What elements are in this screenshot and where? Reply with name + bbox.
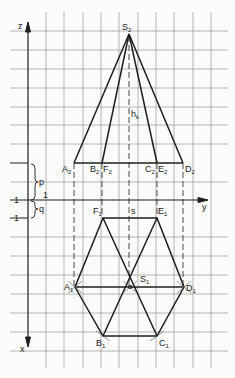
label-a2: A2 (62, 164, 72, 175)
top-view (75, 218, 184, 336)
projection-lines (74, 163, 183, 287)
y-axis-label: y (202, 202, 207, 212)
z-axis-label: z (18, 21, 23, 31)
height-label: hk (131, 109, 140, 120)
label-f2: F2 (103, 164, 113, 175)
label-c1: C1 (159, 338, 170, 349)
x-axis-label: x (20, 344, 25, 354)
label-b1: B1 (96, 338, 106, 349)
label-one-upper: 1 (14, 195, 19, 205)
label-q: q (39, 204, 44, 214)
z-axis-arrow-icon (26, 22, 31, 32)
label-s: s (131, 206, 136, 216)
dimension-braces (31, 164, 38, 218)
apex-label-s2: S2 (122, 22, 132, 33)
label-s1: S1 (140, 274, 150, 285)
label-d2: D2 (185, 164, 196, 175)
label-a1: A1 (64, 282, 74, 293)
projection-diagram: z x y S2 hk A2 B2 F2 C2 E2 D2 F1 E1 s A1… (0, 0, 235, 378)
label-one-axis: 1 (43, 190, 48, 200)
label-d1: D1 (186, 283, 197, 294)
x-axis-arrow-icon (26, 337, 31, 347)
label-one-lower: 1 (14, 213, 19, 223)
label-e2: E2 (158, 164, 168, 175)
label-p: p (39, 177, 44, 187)
diagram-svg: z x y S2 hk A2 B2 F2 C2 E2 D2 F1 E1 s A1… (0, 0, 235, 378)
label-e1: E1 (158, 206, 168, 217)
label-c2: C2 (145, 164, 156, 175)
label-b2: B2 (90, 164, 100, 175)
